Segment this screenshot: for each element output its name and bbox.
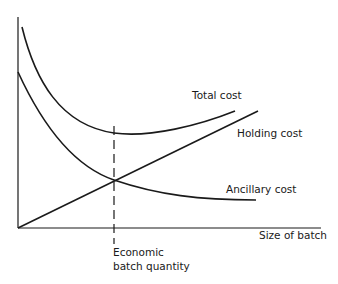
x-axis-label: Size of batch xyxy=(259,229,327,241)
ebq-label-line2: batch quantity xyxy=(113,260,190,272)
ebq-label-line1: Economic xyxy=(113,246,164,258)
holding-cost-line xyxy=(18,111,258,228)
holding-cost-label: Holding cost xyxy=(237,127,302,139)
ancillary-cost-label: Ancillary cost xyxy=(226,183,296,195)
cost-chart: Total cost Holding cost Ancillary cost S… xyxy=(0,0,338,284)
total-cost-label: Total cost xyxy=(191,89,242,101)
total-cost-curve xyxy=(22,27,235,134)
